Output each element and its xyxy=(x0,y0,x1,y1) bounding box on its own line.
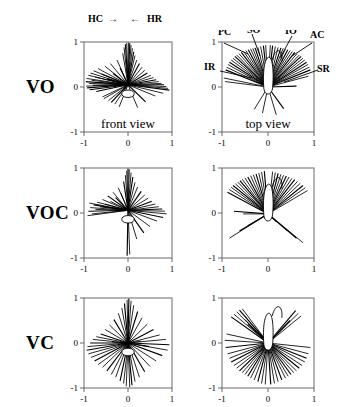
plot-area-vc-front xyxy=(87,298,170,387)
xtick-label-max: 1 xyxy=(312,138,317,148)
xtick-label-max: 1 xyxy=(170,264,175,274)
ytick-label-min: -1 xyxy=(209,127,217,137)
header-annotation-hr-label: HR xyxy=(147,13,162,24)
row-label-vc: VC xyxy=(26,332,54,354)
header-annotation-hc-arrow-icon: → xyxy=(108,13,118,24)
header-annotation-hr-arrow-icon: ← xyxy=(130,13,140,24)
ytick-label-mid: 0 xyxy=(212,82,217,92)
xtick-label-mid: 0 xyxy=(266,394,271,404)
xtick-label-min: -1 xyxy=(80,394,88,404)
ytick-label-max: 1 xyxy=(212,37,217,47)
ytick-label-mid: 0 xyxy=(74,208,79,218)
view-label-top: top view xyxy=(245,116,291,131)
header-annotation-hc-label: HC xyxy=(88,13,103,24)
origin-contour-outline xyxy=(122,90,134,97)
vector-line xyxy=(268,214,303,243)
panel-voc-top-view-svg: 1 0 -1 -1 0 1 xyxy=(200,156,330,274)
row-label-vo: VO xyxy=(26,76,55,98)
ytick-label-min: -1 xyxy=(71,127,79,137)
panel-vc-top-view: 1 0 -1 -1 0 1 xyxy=(200,286,330,404)
figure-container: HC → ← HR VO VOC VC 1 0 -1 -1 0 1 front … xyxy=(0,0,358,407)
panel-vo-front-view-svg: 1 0 -1 -1 0 1 front view xyxy=(62,30,188,148)
ytick-label-min: -1 xyxy=(209,253,217,263)
plot-area-vo-front xyxy=(86,42,170,107)
origin-contour-outline xyxy=(263,57,273,94)
xtick-label-min: -1 xyxy=(218,138,226,148)
panel-voc-front-view-svg: 1 0 -1 -1 0 1 xyxy=(62,156,188,274)
xtick-label-mid: 0 xyxy=(266,264,271,274)
panel-vo-top-view-svg: 1 0 -1 -1 0 1 top view xyxy=(200,30,330,148)
xtick-label-mid: 0 xyxy=(266,138,271,148)
xtick-label-max: 1 xyxy=(170,394,175,404)
plot-area-voc-front xyxy=(88,168,167,255)
hr-arrow-glyph: ← xyxy=(130,13,140,24)
plot-area-vc-top xyxy=(225,307,311,385)
header-annotation-hc: HC xyxy=(88,13,103,24)
panel-vo-top-view: 1 0 -1 -1 0 1 top view PC SO IO AC IR SR xyxy=(200,30,330,148)
view-label-front: front view xyxy=(101,116,155,131)
panel-vc-top-view-svg: 1 0 -1 -1 0 1 xyxy=(200,286,330,404)
origin-contour-hook xyxy=(272,307,282,318)
xtick-label-mid: 0 xyxy=(126,138,131,148)
ytick-label-max: 1 xyxy=(74,293,79,303)
origin-contour-outline xyxy=(263,313,273,350)
xtick-label-min: -1 xyxy=(218,394,226,404)
ytick-label-min: -1 xyxy=(209,383,217,393)
ytick-label-mid: 0 xyxy=(212,208,217,218)
ytick-label-min: -1 xyxy=(71,253,79,263)
xtick-label-mid: 0 xyxy=(126,394,131,404)
origin-contour-outline xyxy=(122,216,134,223)
ytick-label-max: 1 xyxy=(74,163,79,173)
xtick-label-max: 1 xyxy=(170,138,175,148)
plot-area-voc-top xyxy=(228,171,308,243)
panel-voc-top-view: 1 0 -1 -1 0 1 xyxy=(200,156,330,274)
header-annotation-hr: HR xyxy=(147,13,162,24)
ytick-label-max: 1 xyxy=(212,163,217,173)
hc-arrow-glyph: → xyxy=(108,13,118,24)
panel-voc-front-view: 1 0 -1 -1 0 1 xyxy=(62,156,188,274)
ytick-label-max: 1 xyxy=(74,37,79,47)
ytick-label-mid: 0 xyxy=(212,338,217,348)
panel-vc-front-view: 1 0 -1 -1 0 1 xyxy=(62,286,188,404)
panel-vo-front-view: 1 0 -1 -1 0 1 front view xyxy=(62,30,188,148)
origin-contour-outline xyxy=(122,348,134,355)
leader-line-ac xyxy=(292,43,312,56)
xtick-label-max: 1 xyxy=(312,394,317,404)
xtick-label-min: -1 xyxy=(80,264,88,274)
ytick-label-mid: 0 xyxy=(74,338,79,348)
xtick-label-max: 1 xyxy=(312,264,317,274)
xtick-label-mid: 0 xyxy=(126,264,131,274)
ytick-label-mid: 0 xyxy=(74,82,79,92)
xtick-label-min: -1 xyxy=(80,138,88,148)
panel-vc-front-view-svg: 1 0 -1 -1 0 1 xyxy=(62,286,188,404)
leader-line-so xyxy=(252,34,260,56)
plot-area-vo-top xyxy=(224,45,310,115)
ytick-label-min: -1 xyxy=(71,383,79,393)
origin-contour-outline xyxy=(263,184,273,221)
leader-line-pc xyxy=(224,43,248,54)
ytick-label-max: 1 xyxy=(212,293,217,303)
xtick-label-min: -1 xyxy=(218,264,226,274)
